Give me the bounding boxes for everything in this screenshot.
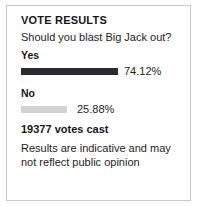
bar-row-no: 25.88% (21, 102, 182, 116)
poll-results-card: VOTE RESULTS Should you blast Big Jack o… (6, 5, 191, 201)
bar-row-yes: 74.12% (21, 64, 182, 78)
result-percent-yes: 74.12% (124, 65, 161, 78)
poll-question: Should you blast Big Jack out? (21, 30, 182, 44)
poll-option-no: No 25.88% (21, 87, 182, 116)
result-bar-yes (21, 68, 118, 75)
votes-cast-total: 19377 votes cast (21, 122, 182, 136)
option-label-no: No (21, 87, 182, 100)
poll-option-yes: Yes 74.12% (21, 49, 182, 78)
page-title: VOTE RESULTS (21, 13, 182, 27)
option-spacer (21, 78, 182, 87)
result-bar-no (21, 106, 67, 113)
option-label-yes: Yes (21, 49, 182, 62)
result-percent-no: 25.88% (77, 103, 114, 116)
poll-content: VOTE RESULTS Should you blast Big Jack o… (21, 13, 182, 169)
poll-disclaimer: Results are indicative and may not refle… (21, 141, 182, 169)
